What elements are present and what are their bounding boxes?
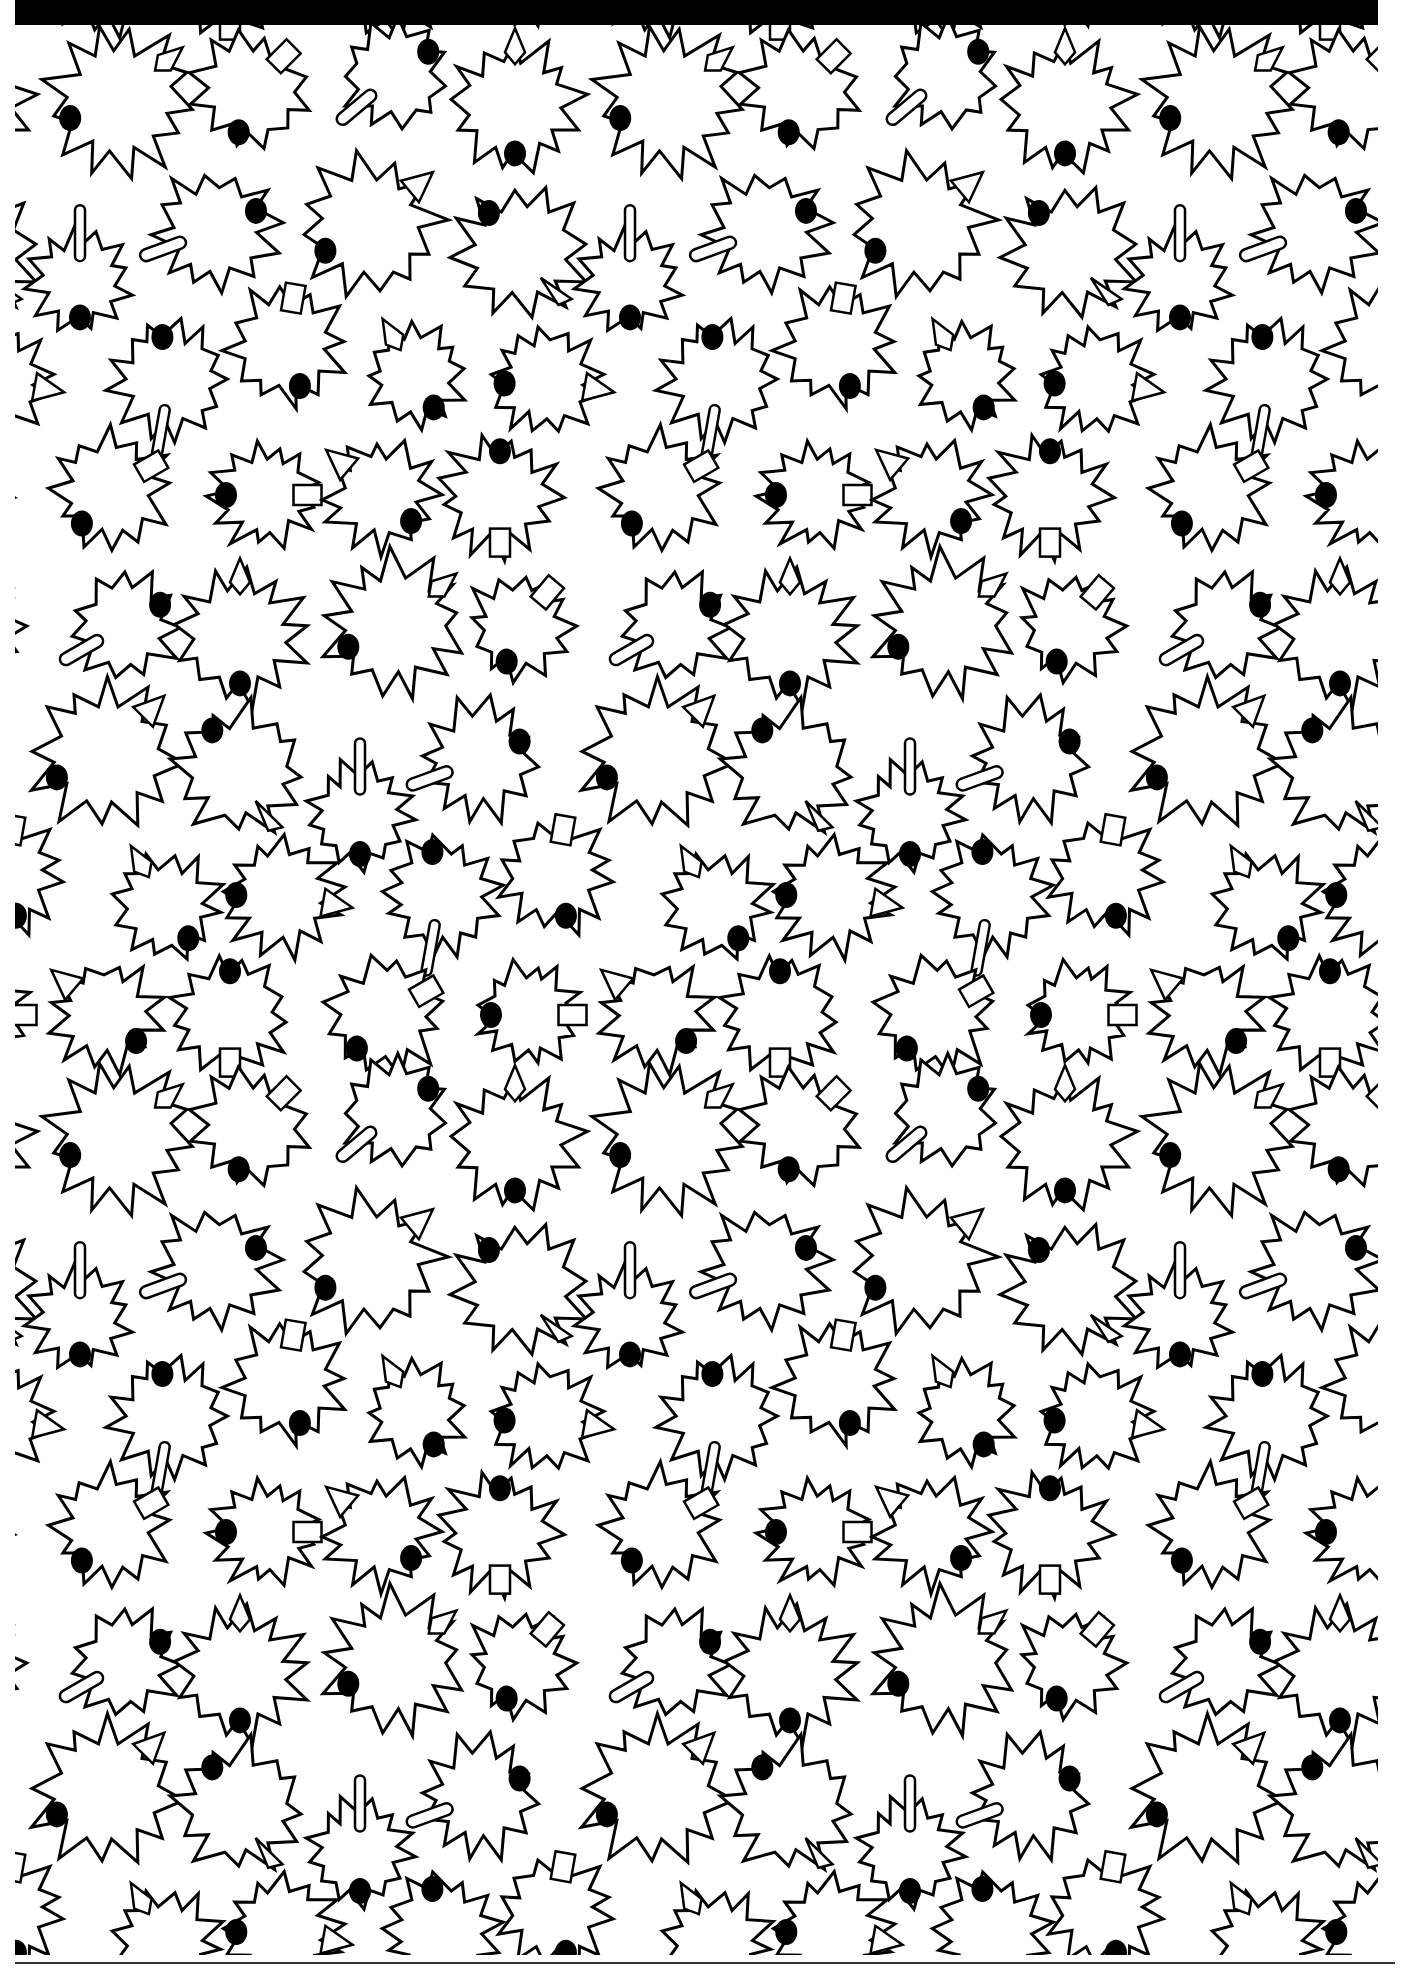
dot-icon bbox=[1030, 1002, 1052, 1028]
starburst-leaf bbox=[1049, 814, 1164, 935]
dot-icon bbox=[1028, 1237, 1050, 1263]
rect-icon bbox=[490, 1566, 510, 1594]
dot-icon bbox=[973, 1431, 995, 1457]
rect-icon bbox=[281, 1320, 306, 1351]
starburst-leaf bbox=[222, 283, 345, 409]
starburst-leaf bbox=[1306, 441, 1378, 548]
dot-icon bbox=[1169, 1341, 1191, 1367]
dot-icon bbox=[619, 304, 641, 330]
starburst-leaf bbox=[223, 835, 355, 961]
starburst-leaf bbox=[688, 1213, 833, 1331]
starburst-leaf bbox=[48, 425, 169, 551]
vbar-icon bbox=[75, 205, 85, 261]
rect-icon bbox=[1101, 814, 1126, 845]
starburst-leaf bbox=[1049, 1851, 1164, 1955]
dot-icon bbox=[496, 1686, 518, 1712]
starburst-leaf bbox=[317, 439, 442, 557]
starburst-leaf bbox=[592, 1064, 743, 1216]
dot-icon bbox=[1225, 1028, 1247, 1054]
vbar-icon bbox=[75, 1242, 85, 1298]
dot-icon bbox=[1054, 140, 1076, 166]
starburst-leaf bbox=[405, 1732, 539, 1860]
dot-icon bbox=[839, 373, 861, 399]
leaf-outline bbox=[919, 1358, 1015, 1467]
starburst-leaf bbox=[169, 25, 286, 40]
leaf-outline bbox=[1142, 1064, 1293, 1216]
dot-icon bbox=[1105, 903, 1127, 929]
starburst-leaf bbox=[491, 327, 616, 431]
leaf-outline bbox=[422, 695, 538, 823]
vbar-icon bbox=[1175, 1242, 1185, 1298]
dot-icon bbox=[421, 1876, 443, 1902]
starburst-leaf bbox=[1322, 283, 1378, 409]
leaf-outline bbox=[720, 1735, 851, 1870]
rect-shape bbox=[294, 485, 322, 505]
starburst-leaf bbox=[15, 188, 36, 318]
leaf-outline bbox=[972, 1732, 1088, 1860]
starburst-leaf bbox=[1269, 956, 1378, 1077]
dot-icon bbox=[775, 1919, 797, 1945]
starburst-leaf bbox=[1323, 1872, 1378, 1956]
dot-icon bbox=[864, 238, 886, 264]
dot-icon bbox=[1171, 511, 1193, 537]
dot-icon bbox=[751, 717, 773, 743]
leaf-outline bbox=[1322, 1324, 1378, 1446]
leaf-outline bbox=[701, 176, 833, 294]
starburst-leaf bbox=[323, 1584, 463, 1736]
dot-icon bbox=[699, 592, 721, 618]
starburst-leaf bbox=[989, 435, 1115, 561]
starburst-leaf bbox=[1142, 959, 1264, 1075]
starburst-leaf bbox=[1289, 30, 1378, 149]
dot-icon bbox=[1325, 882, 1347, 908]
starburst-leaf bbox=[451, 28, 587, 173]
rect-shape bbox=[1101, 1851, 1126, 1882]
starburst-leaf bbox=[884, 25, 995, 129]
starburst-leaf bbox=[15, 575, 27, 682]
starburst-leaf bbox=[24, 1242, 132, 1367]
starburst-leaf bbox=[472, 1612, 577, 1719]
dot-icon bbox=[215, 482, 237, 508]
starburst-leaf bbox=[856, 739, 965, 873]
leaf-outline bbox=[72, 1609, 181, 1715]
leaf-outline bbox=[1212, 854, 1323, 959]
bar-shape bbox=[625, 1242, 635, 1298]
dot-icon bbox=[417, 1076, 439, 1102]
starburst-leaf bbox=[369, 314, 465, 430]
starburst-leaf bbox=[1022, 1612, 1127, 1719]
dot-icon bbox=[609, 105, 631, 131]
rect-shape bbox=[490, 529, 510, 557]
starburst-leaf bbox=[1158, 572, 1281, 678]
starburst-leaf bbox=[42, 27, 193, 179]
leaf-outline bbox=[151, 1213, 283, 1331]
dot-icon bbox=[229, 670, 251, 696]
starburst-leaf bbox=[189, 1067, 309, 1186]
dot-icon bbox=[349, 1878, 371, 1904]
dot-icon bbox=[225, 1919, 247, 1945]
starburst-leaf bbox=[574, 205, 682, 330]
starburst-leaf bbox=[1028, 959, 1137, 1063]
starburst-leaf bbox=[206, 441, 321, 548]
dot-icon bbox=[1059, 1766, 1081, 1792]
dot-icon bbox=[778, 1156, 800, 1182]
rect-icon bbox=[844, 485, 872, 505]
starburst-leaf bbox=[932, 835, 1053, 976]
dot-icon bbox=[151, 324, 173, 350]
bar-shape bbox=[905, 1776, 915, 1832]
starburst-leaf bbox=[656, 319, 778, 462]
starburst-leaf bbox=[1000, 188, 1136, 318]
bottom-rule-line bbox=[15, 1962, 1395, 1964]
starburst-leaf bbox=[720, 1735, 851, 1872]
dot-icon bbox=[201, 717, 223, 743]
rect-shape bbox=[844, 485, 872, 505]
starburst-leaf bbox=[1275, 558, 1378, 708]
dot-icon bbox=[967, 39, 989, 65]
dot-icon bbox=[779, 1707, 801, 1733]
dot-icon bbox=[1159, 1142, 1181, 1168]
starburst-leaf bbox=[1148, 1462, 1269, 1588]
dot-icon bbox=[1059, 729, 1081, 755]
dot-icon bbox=[1039, 1475, 1061, 1501]
vbar-icon bbox=[355, 739, 365, 795]
dot-icon bbox=[509, 729, 531, 755]
leaf-outline bbox=[369, 321, 465, 430]
starburst-leaf bbox=[867, 439, 992, 557]
